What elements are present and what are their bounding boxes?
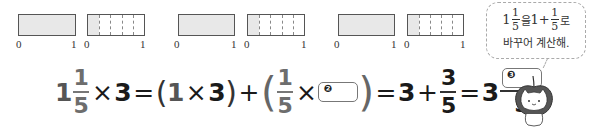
hint-text: 바꾸어 계산해. xyxy=(487,34,585,50)
times-sign: × xyxy=(296,78,316,107)
open-big-paren: ( xyxy=(261,69,276,115)
close-paren: ) xyxy=(225,75,236,110)
tick-label: 1 xyxy=(391,38,397,50)
tick-label: 0 xyxy=(174,38,180,50)
unit-fraction: 1 5 xyxy=(277,67,293,117)
multiplier: 3 xyxy=(114,78,131,107)
equals-sign: = xyxy=(376,78,396,107)
tick-label: 1 xyxy=(301,38,307,50)
whole-bar-1 xyxy=(18,14,76,36)
tick-label: 1 xyxy=(71,38,77,50)
paren-a: 1 xyxy=(167,78,184,107)
hint-speech-bubble: 1 15 을 1 + 15 로 바꾸어 계산해. xyxy=(486,2,586,59)
tick-label: 1 xyxy=(140,38,146,50)
open-paren: ( xyxy=(156,75,167,110)
times-sign: × xyxy=(92,78,112,107)
paren-b: 3 xyxy=(208,78,225,107)
partitioned-bar-1 xyxy=(87,14,145,36)
final-whole: 3 xyxy=(482,78,499,107)
result-fraction: 3 5 xyxy=(440,67,456,117)
mixed-fraction: 1 5 xyxy=(73,67,89,117)
tick-label: 1 xyxy=(231,38,237,50)
times-sign: × xyxy=(186,78,206,107)
whole-bar-3 xyxy=(338,14,395,36)
equation: 1 1 5 × 3 = ( 1 × 3 ) + ( 1 5 × ❷ ) = 3 … xyxy=(55,64,545,120)
partitioned-bar-3 xyxy=(407,14,464,36)
answer-blank-2[interactable]: ❷ xyxy=(318,82,358,102)
plus-sign: + xyxy=(417,78,437,107)
equals-sign: = xyxy=(133,78,153,107)
hint-expression: 1 15 을 1 + 15 로 xyxy=(487,7,585,32)
tick-label: 0 xyxy=(334,38,340,50)
bubble-tail xyxy=(543,58,557,68)
tick-label: 0 xyxy=(84,38,90,50)
tick-label: 1 xyxy=(460,38,466,50)
tick-label: 0 xyxy=(244,38,250,50)
partitioned-bar-2 xyxy=(247,14,305,36)
marker-2: ❷ xyxy=(323,84,331,94)
equals-sign: = xyxy=(459,78,479,107)
mixed-whole: 1 xyxy=(55,78,72,107)
apple-cat-character-icon xyxy=(512,72,556,128)
tick-label: 0 xyxy=(404,38,410,50)
whole-bar-2 xyxy=(178,14,235,36)
close-big-paren: ) xyxy=(358,69,373,115)
result-whole: 3 xyxy=(398,78,415,107)
tick-label: 0 xyxy=(16,38,22,50)
plus-sign: + xyxy=(238,78,258,107)
